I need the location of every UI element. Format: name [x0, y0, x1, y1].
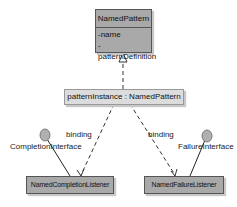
- class-name: NamedPattern: [96, 10, 151, 28]
- completion-interface-label: CompletionInterface: [10, 142, 82, 152]
- binding-label-right: binding: [148, 130, 174, 140]
- named-pattern-class[interactable]: NamedPattern -name -patternDefinition: [95, 9, 152, 53]
- pattern-instance-object[interactable]: patternInstance : NamedPattern: [64, 89, 184, 105]
- named-failure-listener-class[interactable]: NamedFailureListener: [144, 176, 224, 194]
- named-completion-listener-class[interactable]: NamedCompletionListener: [26, 176, 114, 194]
- class-attributes: -name -patternDefinition: [96, 28, 151, 63]
- attribute-name: -name: [98, 29, 149, 40]
- binding-label-left: binding: [66, 130, 92, 140]
- attribute-pattern-definition: -patternDefinition: [98, 40, 149, 62]
- failure-interface-icon: [202, 130, 212, 142]
- failure-interface-label: FailureInterface: [178, 142, 234, 152]
- completion-interface-icon: [40, 129, 50, 141]
